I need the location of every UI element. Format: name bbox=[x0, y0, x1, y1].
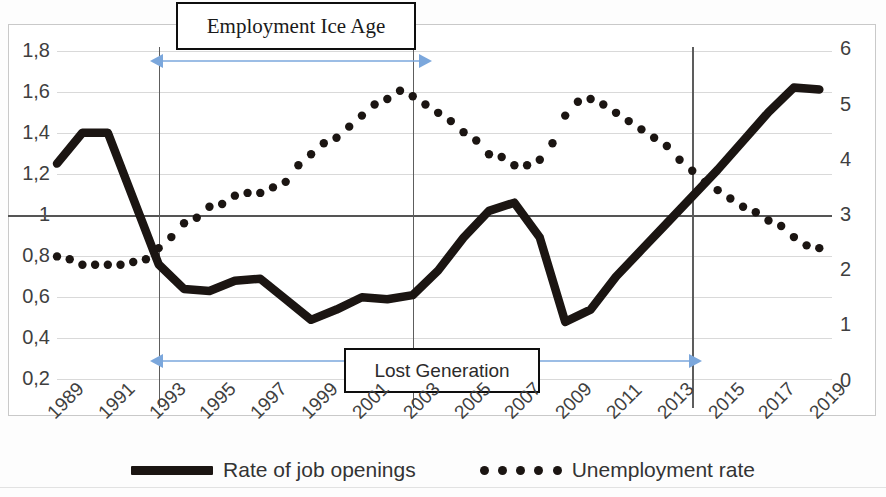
dotted-line-swatch-icon bbox=[480, 465, 562, 475]
y-axis-right-tick-label: 6 bbox=[840, 38, 880, 58]
data-point-unemployment bbox=[307, 150, 315, 158]
data-point-unemployment bbox=[409, 92, 417, 100]
data-point-unemployment bbox=[294, 161, 302, 169]
data-point-unemployment bbox=[815, 244, 823, 252]
data-point-unemployment bbox=[675, 156, 683, 164]
y-axis-left-tick-label: 1,8 bbox=[4, 40, 50, 60]
y-axis-left-tick-label: 0,2 bbox=[4, 368, 50, 388]
data-point-unemployment bbox=[421, 100, 429, 108]
data-point-unemployment bbox=[91, 261, 99, 269]
series-layer bbox=[57, 30, 832, 400]
data-point-unemployment bbox=[154, 244, 162, 252]
legend-item-job-openings: Rate of job openings bbox=[131, 458, 416, 482]
legend-label-job-openings: Rate of job openings bbox=[223, 458, 416, 482]
data-point-unemployment bbox=[218, 200, 226, 208]
arrow-head-right bbox=[419, 54, 432, 68]
data-point-unemployment bbox=[497, 153, 505, 161]
data-point-unemployment bbox=[383, 95, 391, 103]
data-point-unemployment bbox=[663, 142, 671, 150]
data-point-unemployment bbox=[320, 139, 328, 147]
y-axis-left-tick-label: 0,8 bbox=[4, 245, 50, 265]
data-point-unemployment bbox=[332, 133, 340, 141]
data-point-unemployment bbox=[625, 117, 633, 125]
data-point-unemployment bbox=[561, 111, 569, 119]
data-point-unemployment bbox=[739, 203, 747, 211]
data-point-unemployment bbox=[752, 208, 760, 216]
y-axis-right-tick-label: 5 bbox=[840, 94, 880, 114]
y-axis-left-tick-label: 1,4 bbox=[4, 122, 50, 142]
y-axis-left-tick-label: 0,6 bbox=[4, 286, 50, 306]
employment-ice-age-arrow bbox=[150, 48, 432, 74]
data-point-unemployment bbox=[459, 128, 467, 136]
data-point-unemployment bbox=[586, 95, 594, 103]
data-point-unemployment bbox=[764, 216, 772, 224]
data-point-unemployment bbox=[78, 261, 86, 269]
legend-item-unemployment: Unemployment rate bbox=[480, 458, 755, 482]
y-axis-left-tick-label: 1,6 bbox=[4, 81, 50, 101]
data-point-unemployment bbox=[370, 100, 378, 108]
data-point-unemployment bbox=[510, 161, 518, 169]
data-point-unemployment bbox=[574, 98, 582, 106]
data-point-unemployment bbox=[180, 219, 188, 227]
data-point-unemployment bbox=[358, 111, 366, 119]
data-point-unemployment bbox=[193, 214, 201, 222]
legend-label-unemployment: Unemployment rate bbox=[572, 458, 755, 482]
data-point-unemployment bbox=[205, 203, 213, 211]
y-axis-right-tick-label: 0 bbox=[840, 370, 880, 390]
data-point-unemployment bbox=[256, 189, 264, 197]
arrow-head-left bbox=[150, 54, 163, 68]
employment-ice-age-box: Employment Ice Age bbox=[176, 2, 416, 50]
data-point-unemployment bbox=[104, 261, 112, 269]
data-point-unemployment bbox=[523, 161, 531, 169]
data-point-unemployment bbox=[713, 186, 721, 194]
data-point-unemployment bbox=[396, 87, 404, 95]
data-point-unemployment bbox=[612, 109, 620, 117]
data-point-unemployment bbox=[637, 125, 645, 133]
data-point-unemployment bbox=[790, 233, 798, 241]
data-point-unemployment bbox=[345, 122, 353, 130]
employment-ice-age-label: Employment Ice Age bbox=[207, 14, 385, 39]
series-line-job-openings bbox=[57, 88, 819, 322]
data-point-unemployment bbox=[688, 167, 696, 175]
data-point-unemployment bbox=[548, 139, 556, 147]
data-point-unemployment bbox=[536, 156, 544, 164]
data-point-unemployment bbox=[434, 109, 442, 117]
data-point-unemployment bbox=[167, 233, 175, 241]
data-point-unemployment bbox=[599, 100, 607, 108]
data-point-unemployment bbox=[231, 191, 239, 199]
data-point-unemployment bbox=[777, 222, 785, 230]
data-point-unemployment bbox=[485, 150, 493, 158]
data-point-unemployment bbox=[269, 183, 277, 191]
plot-area bbox=[57, 30, 832, 400]
data-point-unemployment bbox=[726, 194, 734, 202]
y-axis-right-tick-label: 3 bbox=[840, 204, 880, 224]
data-point-unemployment bbox=[281, 178, 289, 186]
data-point-unemployment bbox=[243, 189, 251, 197]
scan-rule-line bbox=[0, 487, 886, 488]
lost-generation-label: Lost Generation bbox=[374, 360, 509, 382]
data-point-unemployment bbox=[66, 255, 74, 263]
y-axis-right-tick-label: 2 bbox=[840, 259, 880, 279]
data-point-unemployment bbox=[447, 117, 455, 125]
data-point-unemployment bbox=[472, 136, 480, 144]
y-axis-left-tick-label: 1,2 bbox=[4, 163, 50, 183]
arrow-head-left bbox=[150, 354, 163, 368]
data-point-unemployment bbox=[802, 241, 810, 249]
solid-line-swatch-icon bbox=[131, 466, 213, 475]
chart-legend: Rate of job openings Unemployment rate bbox=[0, 450, 886, 490]
y-axis-right-tick-label: 1 bbox=[840, 314, 880, 334]
data-point-unemployment bbox=[650, 133, 658, 141]
chart-container: 0,20,40,60,811,21,41,61,8 0123456 Employ… bbox=[0, 0, 886, 497]
data-point-unemployment bbox=[53, 252, 61, 260]
arrow-head-right bbox=[689, 354, 702, 368]
data-point-unemployment bbox=[142, 255, 150, 263]
y-axis-left-tick-label: 1 bbox=[4, 204, 50, 224]
data-point-unemployment bbox=[701, 178, 709, 186]
y-axis-left-tick-label: 0,4 bbox=[4, 327, 50, 347]
data-point-unemployment bbox=[129, 258, 137, 266]
data-point-unemployment bbox=[116, 261, 124, 269]
y-axis-right-tick-label: 4 bbox=[840, 149, 880, 169]
